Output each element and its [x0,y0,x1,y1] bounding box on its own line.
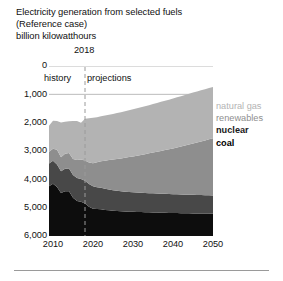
legend-item-renewables: renewables [216,112,282,124]
chart-title-line-2: (Reference case) [16,18,276,30]
y-axis-tick-3000: 3,000 [3,146,47,155]
figure-container: Electricity generation from selected fue… [0,0,283,281]
chart-units-label: billion kilowatthours [16,30,276,42]
y-axis-tick-2000: 2,000 [3,118,47,127]
bottom-divider-rule [14,270,269,271]
y-axis-tick-0: 0 [3,61,47,70]
chart-title-line-1: Electricity generation from selected fue… [16,6,276,18]
chart-legend: natural gas renewables nuclear coal [216,100,282,149]
y-axis-tick-5000: 5,000 [3,203,47,212]
projections-label: projections [87,73,131,83]
plot-area [49,66,213,236]
x-axis-tick-labels: 2010 2020 2030 2040 2050 [0,239,283,255]
x-axis-tick-2040: 2040 [156,239,190,249]
x-axis-tick-2020: 2020 [76,239,110,249]
chart-title-block: Electricity generation from selected fue… [16,6,276,43]
y-axis-tick-4000: 4,000 [3,175,47,184]
legend-item-natural-gas: natural gas [216,100,282,112]
y-axis-tick-1000: 1,000 [3,90,47,99]
legend-item-coal: coal [216,137,282,149]
history-label: history [44,73,71,83]
x-axis-tick-2050: 2050 [196,239,230,249]
x-axis-tick-2030: 2030 [116,239,150,249]
x-axis-tick-2010: 2010 [36,239,70,249]
divider-year-label: 2018 [74,45,94,55]
legend-item-nuclear: nuclear [216,124,282,136]
stacked-area-chart [49,66,213,236]
